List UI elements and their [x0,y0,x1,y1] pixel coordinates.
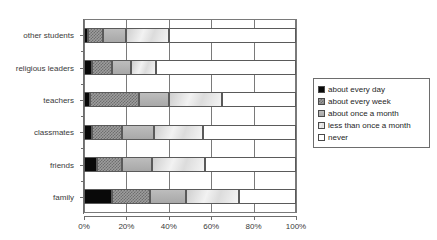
bar-segment-about-once-a-month [139,92,169,107]
bar-segment-less-than-once-a-month [186,189,239,204]
category-label-family: family [53,192,74,201]
bar-family [84,189,296,204]
gridline-40 [169,19,170,213]
bar-other-students [84,28,296,43]
bar-segment-less-than-once-a-month [131,60,156,75]
gridline-60 [211,19,212,213]
bar-segment-about-every-day [84,189,112,204]
x-tick-80 [254,216,255,220]
x-tick-label: 0% [78,222,90,231]
bar-segment-about-once-a-month [103,28,126,43]
bar-segment-about-every-week [90,92,139,107]
bar-segment-never [169,28,296,43]
legend-label: never [328,133,348,142]
bar-segment-never [239,189,296,204]
bar-segment-about-once-a-month [122,125,154,140]
gridline-20 [126,19,127,213]
bar-segment-about-every-week [92,125,122,140]
category-label-classmates: classmates [34,128,74,137]
bar-segment-less-than-once-a-month [126,28,168,43]
bar-segment-about-once-a-month [122,157,152,172]
bar-segment-never [203,125,296,140]
legend-swatch-about-every-day [318,86,325,93]
gridline-80 [254,19,255,213]
legend-label: about once a month [328,109,399,118]
bar-religious-leaders [84,60,296,75]
legend-swatch-about-once-a-month [318,110,325,117]
x-tick-label: 40% [161,222,177,231]
legend-swatch-never [318,134,325,141]
gridline-100 [296,19,297,213]
legend-swatch-about-every-week [318,98,325,105]
bar-segment-about-every-day [84,125,92,140]
legend-label: less than once a month [328,121,411,130]
legend-item: less than once a month [318,119,425,131]
bar-friends [84,157,296,172]
x-tick-100 [296,216,297,220]
legend-label: about every week [328,97,391,106]
bar-segment-about-every-week [88,28,103,43]
category-label-religious-leaders: religious leaders [16,63,74,72]
x-tick-40 [169,216,170,220]
legend-swatch-less-than-once-a-month [318,122,325,129]
x-tick-20 [126,216,127,220]
bar-segment-never [205,157,296,172]
bar-segment-less-than-once-a-month [154,125,203,140]
bar-segment-never [156,60,296,75]
gridline-0 [84,19,85,213]
bar-segment-about-every-week [97,157,122,172]
bar-segment-about-every-week [112,189,150,204]
x-tick-label: 100% [286,222,306,231]
legend-item: about once a month [318,107,425,119]
x-axis-line [84,216,297,217]
bar-segment-about-every-day [84,157,97,172]
legend: about every dayabout every weekabout onc… [313,78,430,148]
x-tick-label: 60% [203,222,219,231]
bar-segment-about-every-week [92,60,111,75]
category-label-other-students: other students [23,31,74,40]
bar-segment-less-than-once-a-month [169,92,222,107]
bar-segment-never [222,92,296,107]
category-label-friends: friends [50,160,74,169]
plot-frame [84,19,296,213]
bar-segment-less-than-once-a-month [152,157,205,172]
legend-label: about every day [328,85,385,94]
plot-area [84,19,296,213]
legend-item: never [318,131,425,143]
x-tick-label: 20% [118,222,134,231]
x-tick-0 [84,216,85,220]
x-tick-60 [211,216,212,220]
clipped-caption [2,0,402,7]
x-tick-label: 80% [246,222,262,231]
bar-segment-about-once-a-month [150,189,186,204]
bar-segment-about-once-a-month [112,60,131,75]
stacked-bar-chart: other studentsreligious leadersteachersc… [0,0,437,240]
category-label-teachers: teachers [43,95,74,104]
bar-segment-about-every-day [84,60,92,75]
bar-classmates [84,125,296,140]
legend-item: about every day [318,83,425,95]
bar-teachers [84,92,296,107]
legend-item: about every week [318,95,425,107]
